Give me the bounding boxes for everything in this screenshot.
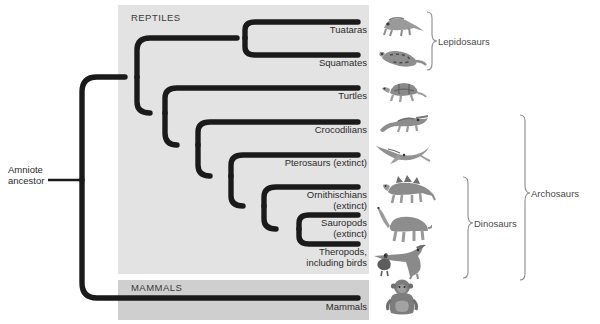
group-label-dinosaurs: Dinosaurs: [474, 218, 517, 229]
group-label-lepidosaurs: Lepidosaurs: [438, 36, 490, 47]
phylogenetic-tree-diagram: REPTILES MAMMALS Amniote ancestor: [0, 0, 600, 324]
lepidosaurs-bracket: [427, 12, 437, 70]
dinosaurs-bracket: [463, 177, 473, 278]
group-label-archosaurs: Archosaurs: [531, 188, 579, 199]
group-brackets: [0, 0, 600, 324]
archosaurs-bracket: [520, 115, 530, 280]
